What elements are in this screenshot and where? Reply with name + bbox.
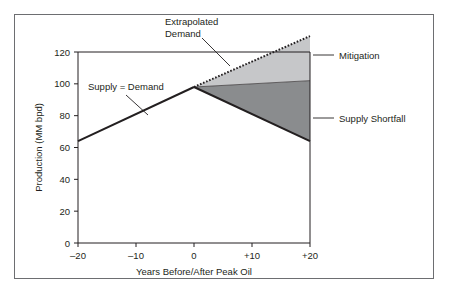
y-tick-label-80: 80 bbox=[59, 110, 70, 121]
y-tick-label-20: 20 bbox=[59, 206, 70, 217]
y-tick-marks bbox=[74, 52, 78, 243]
x-tick-label-zero: 0 bbox=[191, 250, 196, 261]
series-supply-equals-demand bbox=[78, 87, 194, 141]
x-tick-label-plus20: +20 bbox=[302, 250, 318, 261]
figure-root: 120 100 80 60 40 20 0 –20 –10 0 +10 +20 … bbox=[0, 0, 449, 305]
x-tick-label-minus10: –10 bbox=[128, 250, 144, 261]
x-tick-label-plus10: +10 bbox=[244, 250, 260, 261]
production-chart: 120 100 80 60 40 20 0 –20 –10 0 +10 +20 … bbox=[0, 0, 449, 305]
annotation-mitigation: Mitigation bbox=[339, 50, 380, 61]
y-tick-label-60: 60 bbox=[59, 142, 70, 153]
x-tick-marks bbox=[78, 243, 310, 247]
annotation-supply-shortfall: Supply Shortfall bbox=[339, 113, 406, 124]
y-tick-label-120: 120 bbox=[54, 47, 70, 58]
y-tick-label-100: 100 bbox=[54, 78, 70, 89]
y-tick-label-0: 0 bbox=[65, 238, 70, 249]
annotation-extrapolated-demand-line1: Extrapolated bbox=[165, 16, 218, 27]
annotation-supply-equals-demand: Supply = Demand bbox=[88, 81, 164, 92]
x-axis-title: Years Before/After Peak Oil bbox=[136, 266, 252, 277]
leader-line-supply-equals-demand bbox=[126, 95, 148, 115]
y-axis-title: Production (MM bpd) bbox=[33, 103, 44, 192]
annotation-extrapolated-demand-line2: Demand bbox=[165, 28, 201, 39]
x-tick-label-minus20: –20 bbox=[70, 250, 86, 261]
y-tick-label-40: 40 bbox=[59, 174, 70, 185]
